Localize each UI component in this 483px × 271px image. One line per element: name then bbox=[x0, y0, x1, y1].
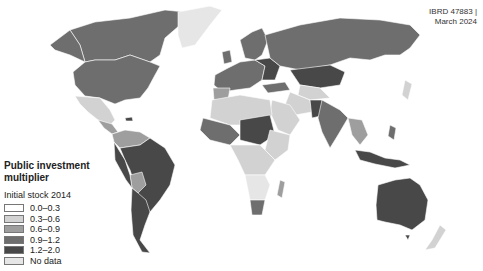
region-southern-africa bbox=[245, 175, 270, 200]
region-south-africa bbox=[250, 200, 265, 215]
region-australia bbox=[376, 178, 428, 230]
legend-label: 0.9–1.2 bbox=[30, 235, 60, 245]
legend-label: 0.0–0.3 bbox=[30, 203, 60, 213]
region-russia bbox=[265, 18, 420, 70]
region-japan bbox=[402, 80, 412, 100]
legend-item: 0.6–0.9 bbox=[4, 224, 90, 235]
legend-swatch bbox=[4, 236, 24, 244]
legend-swatch bbox=[4, 204, 24, 212]
region-tasmania bbox=[405, 235, 410, 240]
legend-label: 1.2–2.0 bbox=[30, 245, 60, 255]
legend-swatch bbox=[4, 215, 24, 223]
legend-swatch bbox=[4, 246, 24, 254]
legend-item: 1.2–2.0 bbox=[4, 245, 90, 256]
region-new-zealand bbox=[425, 225, 446, 250]
region-southeast-asia bbox=[348, 118, 368, 145]
legend: Public investment multiplier Initial sto… bbox=[4, 160, 90, 266]
legend-title-line1: Public investment bbox=[4, 160, 90, 172]
map-date: March 2024 bbox=[429, 17, 477, 27]
region-uk bbox=[222, 50, 232, 64]
legend-item: 0.9–1.2 bbox=[4, 235, 90, 246]
region-western-europe bbox=[214, 60, 265, 92]
legend-label: 0.3–0.6 bbox=[30, 214, 60, 224]
region-philippines bbox=[388, 125, 396, 140]
region-turkey bbox=[262, 82, 290, 93]
region-greenland bbox=[178, 6, 222, 48]
region-canada bbox=[70, 10, 185, 62]
region-madagascar bbox=[277, 180, 285, 198]
region-scandinavia bbox=[240, 28, 268, 60]
map-reference: IBRD 47883 | March 2024 bbox=[429, 7, 477, 27]
legend-swatch bbox=[4, 257, 24, 265]
legend-item: No data bbox=[4, 256, 90, 267]
legend-subtitle: Initial stock 2014 bbox=[4, 190, 90, 200]
legend-item: 0.3–0.6 bbox=[4, 214, 90, 225]
legend-title-line2: multiplier bbox=[4, 172, 90, 184]
legend-label: No data bbox=[30, 256, 62, 266]
legend-label: 0.6–0.9 bbox=[30, 224, 60, 234]
legend-item: 0.0–0.3 bbox=[4, 203, 90, 214]
region-indonesia bbox=[355, 150, 410, 168]
region-caribbean bbox=[125, 117, 133, 121]
legend-swatch bbox=[4, 225, 24, 233]
ibrd-number: IBRD 47883 | bbox=[429, 7, 477, 17]
